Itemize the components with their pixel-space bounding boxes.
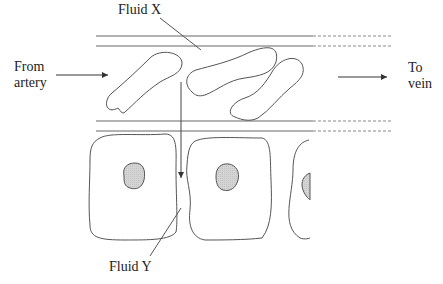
nucleus-2 — [216, 164, 239, 191]
nucleus-3 — [302, 173, 310, 200]
capillary-diagram: Fluid X From artery To vein Fluid Y — [0, 0, 443, 284]
capillary-wall-bottom — [96, 121, 313, 131]
capillary-wall-top — [96, 36, 313, 46]
blood-cell-2 — [187, 48, 277, 96]
blood-cell-1 — [106, 52, 182, 113]
label-fluid-x: Fluid X — [118, 2, 161, 18]
blood-cell-3 — [230, 58, 303, 120]
label-fluid-y: Fluid Y — [109, 259, 152, 275]
label-from-artery: From artery — [14, 59, 47, 91]
diagram-drawing — [0, 0, 443, 284]
capillary-wall-dashed — [313, 36, 392, 131]
nucleus-1 — [124, 163, 145, 189]
fluid-x-leader — [160, 18, 201, 50]
label-to-vein: To vein — [408, 60, 432, 92]
